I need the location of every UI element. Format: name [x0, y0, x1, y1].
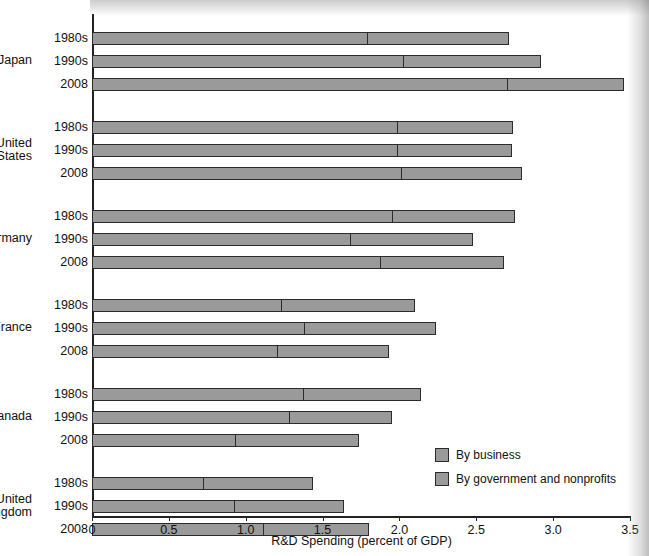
bar-row [92, 477, 313, 490]
bar-segment-business [92, 32, 369, 45]
bar-segment-business [92, 121, 398, 134]
bar-segment-government [403, 55, 541, 68]
y-axis-country-label: Japan [0, 54, 32, 67]
y-axis-period-label: 2008 [36, 166, 88, 180]
y-axis-country-label: United Kingdom [0, 493, 32, 519]
bar-segment-business [92, 322, 306, 335]
bar-row [92, 233, 473, 246]
bar-segment-government [304, 322, 436, 335]
bar-row [92, 256, 504, 269]
bar-segment-government [235, 434, 359, 447]
y-axis-period-label: 2008 [36, 522, 88, 536]
bar-segment-government [289, 411, 392, 424]
x-axis-tick [323, 516, 324, 521]
y-axis-labels: 1980s1990s2008Japan1980s1990s2008United … [0, 0, 88, 556]
y-axis-period-label: 1990s [36, 499, 88, 513]
y-axis-period-label: 1990s [36, 321, 88, 335]
legend-item-government: By government and nonprofits [435, 472, 616, 486]
bar-segment-government [203, 477, 313, 490]
bar-segment-business [92, 299, 283, 312]
y-axis-period-label: 1980s [36, 476, 88, 490]
bar-segment-business [92, 78, 509, 91]
x-axis-tick [246, 516, 247, 521]
legend-label: By government and nonprofits [456, 472, 616, 486]
bar-row [92, 434, 359, 447]
x-axis-tick [399, 516, 400, 521]
x-axis-tick [169, 516, 170, 521]
bar-segment-business [92, 233, 352, 246]
bar-row [92, 210, 515, 223]
y-axis-period-label: 1990s [36, 232, 88, 246]
y-axis-period-label: 1980s [36, 209, 88, 223]
bar-segment-government [281, 299, 414, 312]
rd-spending-chart: 1980s1990s2008Japan1980s1990s2008United … [0, 0, 649, 556]
y-axis-period-label: 1980s [36, 387, 88, 401]
x-axis-tick [630, 516, 631, 521]
y-axis-period-label: 1980s [36, 31, 88, 45]
bar-segment-government [397, 121, 514, 134]
legend-swatch-icon [435, 472, 449, 486]
x-axis-tick [553, 516, 554, 521]
bar-segment-government [507, 78, 624, 91]
legend: By business By government and nonprofits [435, 448, 616, 496]
legend-swatch-icon [435, 448, 449, 462]
bar-segment-government [401, 167, 522, 180]
bar-segment-business [92, 411, 290, 424]
bar-row [92, 345, 389, 358]
plot-area [92, 14, 630, 516]
x-axis-tick [476, 516, 477, 521]
bar-segment-government [397, 144, 512, 157]
y-axis-period-label: 2008 [36, 255, 88, 269]
bar-row [92, 500, 344, 513]
bar-row [92, 322, 436, 335]
bar-segment-business [92, 477, 204, 490]
y-axis-country-label: Germany [0, 232, 32, 245]
y-axis-period-label: 1990s [36, 54, 88, 68]
y-axis-period-label: 1990s [36, 410, 88, 424]
bar-segment-government [303, 388, 421, 401]
y-axis-period-label: 2008 [36, 77, 88, 91]
bar-segment-government [234, 500, 344, 513]
bar-segment-business [92, 434, 236, 447]
bar-row [92, 299, 415, 312]
bar-segment-business [92, 345, 278, 358]
bar-segment-business [92, 388, 304, 401]
y-axis-period-label: 1990s [36, 143, 88, 157]
bar-row [92, 55, 541, 68]
legend-label: By business [456, 448, 521, 462]
bar-row [92, 78, 624, 91]
bar-segment-business [92, 256, 381, 269]
bar-segment-business [92, 167, 403, 180]
x-axis-title: R&D Spending (percent of GDP) [92, 534, 631, 548]
bar-row [92, 144, 512, 157]
bar-segment-business [92, 210, 393, 223]
bar-segment-government [367, 32, 508, 45]
scan-shadow-right [627, 0, 649, 556]
bar-segment-business [92, 55, 404, 68]
y-axis-period-label: 2008 [36, 433, 88, 447]
legend-item-business: By business [435, 448, 616, 462]
bar-row [92, 167, 522, 180]
bar-row [92, 388, 421, 401]
bar-row [92, 411, 392, 424]
bar-row [92, 32, 509, 45]
bar-segment-government [277, 345, 389, 358]
y-axis-country-label: France [0, 321, 32, 334]
bar-segment-business [92, 144, 398, 157]
bar-row [92, 121, 513, 134]
bar-segment-business [92, 500, 235, 513]
y-axis-period-label: 1980s [36, 120, 88, 134]
y-axis-country-label: Canada [0, 410, 32, 423]
x-axis-line [92, 516, 631, 518]
bar-segment-government [380, 256, 504, 269]
y-axis-country-label: United States [0, 137, 32, 163]
y-axis-period-label: 1980s [36, 298, 88, 312]
bar-segment-government [392, 210, 515, 223]
bar-segment-government [350, 233, 473, 246]
x-axis-tick [92, 516, 93, 521]
y-axis-period-label: 2008 [36, 344, 88, 358]
